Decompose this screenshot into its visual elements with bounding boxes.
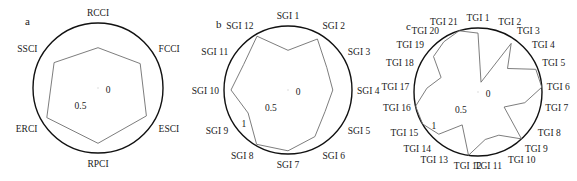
data-series-polygon: [47, 48, 147, 144]
axis-label: SGI 4: [357, 86, 380, 96]
panel-letter: b: [216, 18, 222, 30]
tick-label: 0.5: [455, 105, 467, 115]
radar-panel-a: aRCCIFCCIESCIRPCIERCISSCI00.5: [16, 8, 180, 169]
axis-label: ESCI: [159, 124, 180, 134]
axis-label: TGI 13: [420, 155, 448, 165]
axis-label: TGI 19: [396, 40, 424, 50]
axis-label: SGI 3: [348, 47, 371, 57]
tick-label: 0: [106, 85, 111, 95]
axis-label: RCCI: [87, 8, 109, 18]
tick-label: 0.5: [265, 103, 277, 113]
axis-label: TGI 10: [508, 155, 536, 165]
tick-label: 1: [432, 121, 437, 131]
axis-label: TGI 5: [542, 58, 565, 68]
data-series-polygon: [231, 36, 333, 151]
panel-letter: c: [406, 20, 411, 32]
radar-figure: aRCCIFCCIESCIRPCIERCISSCI00.5bSGI 1SGI 2…: [0, 0, 577, 181]
axis-label: SGI 8: [231, 151, 254, 161]
axis-label: TGI 4: [532, 40, 555, 50]
axis-label: FCCI: [159, 44, 180, 54]
axis-label: TGI 18: [386, 58, 414, 68]
tick-label: 0: [486, 89, 491, 99]
axis-label: SGI 12: [226, 21, 253, 31]
axis-label: SGI 2: [323, 21, 346, 31]
center-dot: [97, 87, 99, 89]
axis-label: TGI 7: [545, 103, 568, 113]
axis-label: SGI 11: [201, 47, 228, 57]
panel-letter: a: [25, 15, 30, 27]
axis-label: SGI 9: [206, 126, 229, 136]
tick-label: 0: [296, 87, 301, 97]
axis-label: TGI 6: [547, 82, 570, 92]
radar-panel-c: cTGI 1TGI 2TGI 3TGI 4TGI 5TGI 6TGI 7TGI …: [381, 13, 570, 171]
axis-label: TGI 17: [381, 82, 409, 92]
axis-label: TGI 8: [538, 128, 561, 138]
axis-label: TGI 21: [430, 17, 458, 27]
data-series-polygon: [416, 31, 542, 156]
axis-label: RPCI: [87, 159, 108, 169]
tick-label: 1: [242, 119, 247, 129]
axis-label: ERCI: [16, 124, 38, 134]
center-dot: [477, 91, 479, 93]
axis-label: TGI 15: [390, 128, 418, 138]
axis-label: TGI 9: [525, 144, 548, 154]
axis-label: TGI 16: [383, 103, 411, 113]
axis-label: TGI 1: [467, 13, 490, 23]
axis-label: SGI 5: [348, 126, 371, 136]
axis-label: TGI 14: [403, 144, 431, 154]
axis-label: SSCI: [17, 44, 37, 54]
axis-label: TGI 3: [517, 26, 540, 36]
tick-label: 0.5: [75, 101, 87, 111]
center-dot: [287, 89, 289, 91]
axis-label: TGI 12: [454, 161, 482, 171]
axis-label: SGI 6: [323, 151, 346, 161]
axis-label: SGI 10: [192, 86, 219, 96]
radar-charts-svg: aRCCIFCCIESCIRPCIERCISSCI00.5bSGI 1SGI 2…: [0, 0, 577, 181]
axis-label: SGI 1: [277, 11, 300, 21]
axis-label: TGI 20: [411, 26, 439, 36]
axis-label: SGI 7: [277, 160, 300, 170]
radar-panel-b: bSGI 1SGI 2SGI 3SGI 4SGI 5SGI 6SGI 7SGI …: [192, 11, 380, 170]
